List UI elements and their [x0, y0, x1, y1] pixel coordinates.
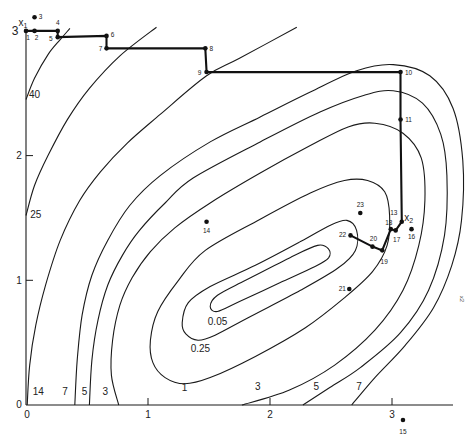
- annotations: x1x2x2: [19, 16, 465, 302]
- contour-label-25: 25: [30, 209, 42, 220]
- point-marker: [32, 29, 37, 34]
- data-point-6: 6: [104, 31, 114, 38]
- point-marker: [358, 211, 363, 216]
- point-marker: [401, 418, 406, 423]
- var-subscript: 2: [409, 216, 413, 223]
- contour-label-5: 5: [82, 386, 88, 397]
- point-marker: [393, 228, 398, 233]
- rotated-axis-mark: x2: [459, 296, 465, 303]
- point-label: 18: [385, 219, 393, 226]
- search-path: [26, 31, 402, 251]
- start-label: x1: [19, 16, 28, 28]
- data-point-5: 5: [49, 35, 60, 42]
- contour-label-1: 1: [182, 382, 188, 393]
- contour-label-0_05: 0.05: [208, 316, 228, 327]
- point-label: 4: [56, 19, 60, 26]
- data-points: 12345678910111314151617181920212223: [24, 13, 416, 436]
- point-label: 20: [370, 235, 378, 242]
- data-point-23: 23: [357, 201, 365, 215]
- y-tick-label: 1: [16, 275, 22, 286]
- point-label: 2: [35, 34, 39, 41]
- contour-line-1: [150, 179, 390, 384]
- contour-lines: [26, 27, 464, 405]
- contour-label-40: 40: [29, 89, 41, 100]
- x-tick-label: 2: [267, 409, 273, 420]
- data-point-21: 21: [339, 285, 352, 292]
- point-label: 8: [210, 45, 214, 52]
- point-label: 15: [399, 428, 407, 435]
- point-marker: [204, 70, 209, 75]
- contour-label-14: 14: [33, 386, 45, 397]
- data-point-22: 22: [339, 231, 353, 238]
- contour-labels: 40251477553310.250.05: [29, 89, 362, 397]
- point-label: 21: [339, 285, 347, 292]
- point-marker: [32, 15, 37, 20]
- end-label: x2: [404, 211, 413, 223]
- point-marker: [380, 248, 385, 253]
- data-point-17: 17: [393, 228, 401, 243]
- point-label: 16: [408, 233, 416, 240]
- contour-label-0_25: 0.25: [191, 343, 211, 354]
- point-marker: [398, 117, 403, 122]
- point-marker: [203, 46, 208, 51]
- point-label: 6: [111, 31, 115, 38]
- data-point-4: 4: [55, 19, 60, 33]
- point-marker: [409, 227, 414, 232]
- point-label: 10: [405, 69, 413, 76]
- point-marker: [348, 233, 353, 238]
- y-tick-label: 0: [16, 399, 22, 410]
- data-point-18: 18: [385, 219, 393, 232]
- data-point-20: 20: [370, 235, 378, 249]
- x-tick-label: 3: [389, 409, 395, 420]
- point-marker: [24, 29, 29, 34]
- search-path-line: [26, 31, 402, 251]
- contour-plot: 40251477553310.250.05 01230123 123456789…: [0, 0, 475, 444]
- point-label: 22: [339, 231, 347, 238]
- point-label: 1: [26, 34, 30, 41]
- point-label: 13: [390, 209, 398, 216]
- point-marker: [104, 34, 109, 39]
- point-label: 7: [99, 45, 103, 52]
- data-point-19: 19: [380, 248, 388, 265]
- point-label: 11: [405, 116, 412, 123]
- point-label: 9: [198, 69, 202, 76]
- point-label: 14: [203, 227, 211, 234]
- point-label: 23: [357, 201, 365, 208]
- data-point-3: 3: [32, 13, 42, 20]
- contour-line-14: [27, 27, 297, 405]
- point-label: 17: [393, 236, 401, 243]
- point-label: 5: [49, 35, 53, 42]
- point-marker: [347, 287, 352, 292]
- point-marker: [370, 244, 375, 249]
- contour-line-25: [26, 27, 157, 215]
- point-marker: [204, 219, 209, 224]
- contour-label-5: 5: [314, 381, 320, 392]
- point-label: 19: [381, 258, 389, 265]
- point-marker: [55, 29, 60, 34]
- y-tick-label: 2: [16, 150, 22, 161]
- x-tick-label: 1: [145, 409, 151, 420]
- data-point-15: 15: [399, 418, 407, 436]
- x-tick-label: 0: [24, 409, 30, 420]
- contour-label-7: 7: [356, 381, 362, 392]
- contour-label-7: 7: [62, 386, 68, 397]
- contour-label-3: 3: [103, 386, 109, 397]
- contour-label-3: 3: [255, 381, 261, 392]
- point-marker: [398, 70, 403, 75]
- data-point-14: 14: [203, 219, 211, 234]
- var-subscript: 1: [24, 21, 28, 28]
- data-point-16: 16: [408, 227, 416, 240]
- point-label: 3: [39, 13, 43, 20]
- point-marker: [388, 227, 393, 232]
- point-marker: [55, 35, 60, 40]
- point-marker: [104, 46, 109, 51]
- contour-plot-figure: 40251477553310.250.05 01230123 123456789…: [0, 0, 475, 444]
